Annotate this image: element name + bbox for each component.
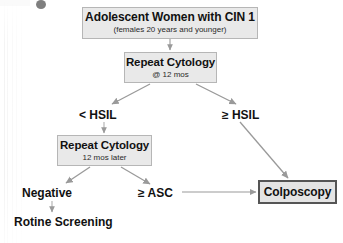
label-routine-screening: Rotine Screening [14,215,113,229]
scan-artifact-streak [16,0,17,243]
node-subtitle: 12 mos later [82,153,126,163]
node-subtitle: @ 12 mos [152,70,189,80]
scan-artifact-streak [12,0,13,243]
node-colposcopy[interactable]: Colposcopy [258,180,337,204]
arrow-repeat-cytology-1-to-greater-equal-hsil [196,84,236,104]
arrow-repeat-cytology-2-to-negative [66,167,90,183]
arrow-greater-equal-hsil-to-colposcopy [240,122,288,178]
node-title: Adolescent Women with CIN 1 [85,11,255,24]
scan-artifact-streak [21,0,22,243]
node-adolescent-women-with-cin1[interactable]: Adolescent Women with CIN 1 (females 20 … [82,7,258,39]
label-less-than-hsil: < HSIL [79,108,117,122]
label-greater-equal-hsil: ≥ HSIL [222,108,259,122]
scan-artifact-smudge [0,0,30,6]
flowchart-canvas: Adolescent Women with CIN 1 (females 20 … [0,0,343,243]
node-subtitle: (females 20 years and younger) [114,25,227,35]
scan-artifact-smudge [36,0,46,9]
node-repeat-cytology-12-mos[interactable]: Repeat Cytology @ 12 mos [124,52,217,83]
node-title: Colposcopy [264,186,332,199]
node-title: Repeat Cytology [126,56,215,69]
arrow-repeat-cytology-1-to-less-than-hsil [112,84,150,104]
arrow-repeat-cytology-2-to-greater-equal-asc [121,167,150,184]
scan-artifact-streak [4,0,5,243]
node-repeat-cytology-12-mos-later[interactable]: Repeat Cytology 12 mos later [57,135,152,166]
scan-artifact-streak [7,0,8,243]
label-greater-equal-asc: ≥ ASC [138,186,173,200]
label-negative: Negative [22,186,72,200]
node-title: Repeat Cytology [60,139,149,152]
